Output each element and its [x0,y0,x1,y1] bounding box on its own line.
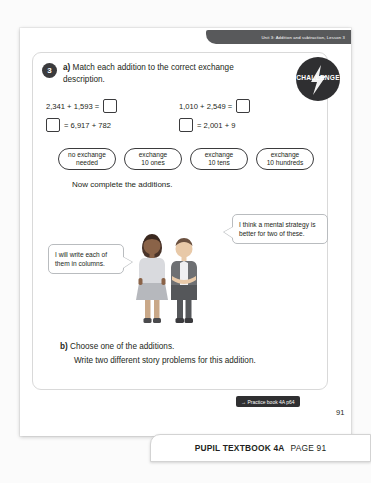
option-line-2: 10 ones [141,159,164,167]
footer-title: PUPIL TEXTBOOK 4A [195,443,285,453]
part-b-line-1: b) Choose one of the additions. [60,340,300,354]
page-number: 91 [336,408,344,417]
unit-banner: Unit 3: Addition and subtraction, Lesson… [206,30,351,44]
equation-text: 1,010 + 2,549 = [179,102,232,111]
equation-text: = 2,001 + 9 [197,121,235,130]
option-line-2: 10 hundreds [267,159,304,167]
option-line-1: exchange [139,151,168,159]
answer-box[interactable] [236,99,250,113]
exchange-option-group: no exchange needed exchange 10 ones exch… [58,148,314,170]
answer-box[interactable] [103,99,117,113]
exchange-option-10-hundreds[interactable]: exchange 10 hundreds [256,148,314,170]
equation-row: 2,341 + 1,593 = 1,010 + 2,549 = [46,99,312,113]
equation-item: = 6,917 + 782 [46,118,179,132]
exchange-option-no-exchange[interactable]: no exchange needed [58,148,116,170]
speech-bubble-left-text: I will write each of them in columns. [55,251,107,267]
exchange-option-10-tens[interactable]: exchange 10 tens [190,148,248,170]
answer-box[interactable] [46,118,60,132]
option-line-2: 10 tens [208,159,230,167]
challenge-label: CHALLENGE [296,74,340,81]
option-line-1: exchange [271,151,300,159]
option-line-1: no exchange [68,151,106,159]
equation-text: = 6,917 + 782 [64,121,111,130]
unit-banner-label: Unit 3: Addition and subtraction, Lesson… [261,35,345,40]
question-number: 3 [42,63,57,78]
equation-item: = 2,001 + 9 [179,118,312,132]
practice-book-reference: → Practice book 4A p64 [236,396,300,407]
speech-bubble-right: I think a mental strategy is better for … [232,214,328,244]
footer-page: PAGE 91 [291,443,327,453]
character-girl [136,234,168,323]
character-boy [171,238,197,323]
equation-item: 1,010 + 2,549 = [179,99,312,113]
equation-row: = 6,917 + 782 = 2,001 + 9 [46,113,312,132]
part-b-block: b) Choose one of the additions. Write tw… [60,340,300,368]
pupil-characters-illustration [128,218,208,326]
part-b-text-1: Choose one of the additions. [70,342,174,351]
option-line-2: needed [76,159,98,167]
equation-text: 2,341 + 1,593 = [46,102,99,111]
part-b-label: b) [60,342,68,351]
option-line-1: exchange [205,151,234,159]
now-complete-instruction: Now complete the additions. [72,180,173,189]
part-a-text: a) Match each addition to the correct ex… [63,62,238,85]
challenge-badge: CHALLENGE [296,57,340,101]
equation-group: 2,341 + 1,593 = 1,010 + 2,549 = = 6,917 … [46,99,312,132]
part-b-text-2: Write two different story problems for t… [74,354,300,368]
equation-item: 2,341 + 1,593 = [46,99,179,113]
textbook-page: Unit 3: Addition and subtraction, Lesson… [0,0,371,483]
part-a-label: a) [63,63,70,72]
answer-box[interactable] [179,118,193,132]
part-a-stem: Match each addition to the correct excha… [63,63,234,84]
speech-bubble-left: I will write each of them in columns. [48,244,124,274]
exchange-option-10-ones[interactable]: exchange 10 ones [124,148,182,170]
footer-bar: PUPIL TEXTBOOK 4A PAGE 91 [150,434,371,462]
speech-bubble-right-text: I think a mental strategy is better for … [239,221,316,237]
speech-tail-icon [224,227,233,238]
